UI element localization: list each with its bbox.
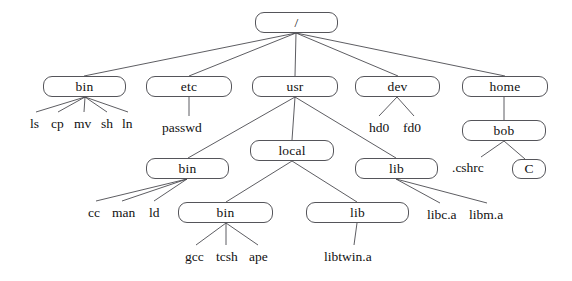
tree-node-bin[interactable]: bin [43, 76, 126, 97]
tree-node-dev[interactable]: dev [355, 76, 440, 97]
tree-edge [96, 179, 187, 201]
tree-leaf-leaf-gcc: gcc [185, 250, 204, 264]
tree-edge [295, 33, 296, 76]
tree-node-usr-lib[interactable]: lib [355, 158, 438, 179]
tree-leaf-leaf-libc-a: libc.a [427, 208, 457, 222]
tree-node-etc[interactable]: etc [146, 76, 232, 97]
tree-edge [226, 223, 258, 245]
filesystem-tree-diagram: /binetcusrdevhomeboblocallibbinCbinlibls… [0, 0, 572, 281]
tree-edge [85, 97, 107, 112]
tree-leaf-leaf-sh: sh [101, 117, 113, 131]
tree-edge [154, 179, 187, 201]
tree-leaf-leaf-ls: ls [30, 117, 39, 131]
tree-edge [504, 141, 525, 159]
tree-leaf-leaf-mv: mv [74, 117, 91, 131]
tree-leaf-leaf-man: man [112, 206, 135, 220]
tree-edge [292, 97, 295, 140]
tree-edge [122, 179, 187, 201]
tree-leaf-leaf-tcsh: tcsh [216, 250, 238, 264]
tree-leaf-leaf-ln: ln [122, 117, 133, 131]
tree-edge [396, 179, 440, 203]
tree-node-usr-bin[interactable]: bin [146, 158, 229, 179]
tree-edge [296, 33, 505, 76]
tree-edge [58, 97, 85, 112]
tree-node-usr[interactable]: usr [252, 76, 338, 97]
tree-leaf-leaf-ape: ape [249, 250, 268, 264]
tree-node-c-dir[interactable]: C [512, 159, 546, 179]
tree-edge [292, 161, 357, 202]
tree-node-local[interactable]: local [250, 140, 334, 161]
tree-leaf-leaf-libtwin-a: libtwin.a [324, 250, 372, 264]
tree-leaf-leaf-fd0: fd0 [403, 121, 421, 135]
tree-node-local-lib[interactable]: lib [306, 202, 409, 223]
tree-node-root[interactable]: / [255, 12, 338, 33]
tree-edge [354, 223, 357, 245]
tree-leaf-leaf-libm-a: libm.a [469, 208, 503, 222]
tree-edge [84, 33, 296, 76]
tree-leaf-leaf-cshrc: .cshrc [452, 161, 484, 175]
tree-leaf-leaf-hd0: hd0 [369, 121, 389, 135]
tree-edge [84, 97, 85, 112]
tree-edge [296, 33, 398, 76]
tree-edge [379, 97, 397, 116]
tree-edge [481, 141, 504, 157]
tree-node-bob[interactable]: bob [462, 120, 546, 141]
tree-node-home[interactable]: home [462, 76, 548, 97]
tree-leaf-leaf-ld: ld [149, 206, 160, 220]
tree-edge [189, 33, 296, 76]
tree-edge [226, 161, 292, 202]
tree-edge [36, 97, 85, 112]
tree-leaf-leaf-cc: cc [88, 206, 100, 220]
tree-node-local-bin[interactable]: bin [178, 202, 273, 223]
tree-leaf-leaf-cp: cp [51, 117, 64, 131]
tree-edge [397, 97, 414, 116]
tree-edge [196, 223, 226, 245]
tree-leaf-leaf-passwd: passwd [162, 121, 202, 135]
tree-edge [85, 97, 128, 112]
tree-edge [396, 179, 487, 203]
